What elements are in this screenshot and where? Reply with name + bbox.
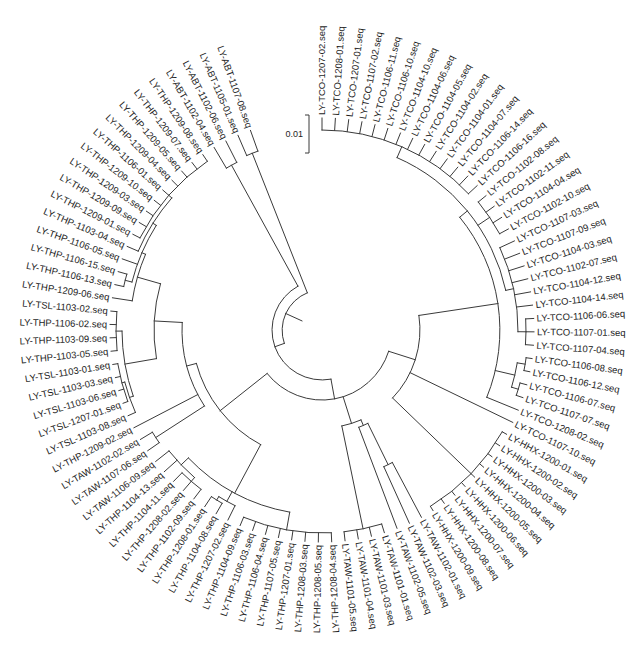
branch bbox=[335, 118, 336, 130]
branch bbox=[495, 443, 499, 446]
branch bbox=[515, 292, 531, 295]
scale-bar-line bbox=[305, 115, 309, 153]
branch bbox=[129, 396, 133, 397]
circular-phylogenetic-tree: LY-TCO-1207-02.seqLY-TCO-1208-01.seqLY-T… bbox=[0, 0, 640, 670]
clade-arc bbox=[460, 217, 500, 397]
clade-arc bbox=[272, 286, 331, 380]
branch bbox=[342, 426, 363, 529]
branch bbox=[194, 489, 201, 499]
branch bbox=[408, 138, 413, 149]
branch bbox=[226, 141, 237, 162]
branch bbox=[452, 491, 455, 495]
branch bbox=[516, 395, 523, 397]
branch bbox=[361, 420, 363, 426]
branch bbox=[440, 159, 447, 169]
branch bbox=[128, 412, 135, 415]
branch bbox=[111, 351, 117, 352]
branch bbox=[384, 467, 410, 523]
branch bbox=[252, 153, 307, 293]
branch bbox=[113, 364, 118, 365]
branch bbox=[133, 234, 140, 238]
branch bbox=[397, 147, 402, 158]
leaf-label: LY-THP-1208-05.seq bbox=[311, 545, 324, 633]
leaf-labels: LY-TCO-1207-02.seqLY-TCO-1208-01.seqLY-T… bbox=[19, 26, 625, 634]
branch bbox=[123, 402, 128, 404]
branch bbox=[478, 217, 490, 225]
branch bbox=[512, 387, 519, 389]
branch bbox=[343, 397, 351, 424]
branch bbox=[228, 506, 235, 520]
branch bbox=[156, 451, 169, 462]
branch bbox=[344, 532, 345, 541]
branch bbox=[384, 128, 388, 139]
branch bbox=[137, 277, 160, 284]
branch bbox=[524, 371, 530, 372]
branch bbox=[169, 195, 172, 198]
branch bbox=[146, 211, 153, 215]
branch bbox=[153, 223, 156, 225]
branch bbox=[410, 373, 513, 423]
branch bbox=[382, 524, 385, 533]
branch bbox=[509, 266, 524, 271]
branch bbox=[478, 196, 486, 202]
branch bbox=[396, 133, 400, 144]
branch bbox=[134, 395, 198, 428]
branch bbox=[441, 499, 444, 503]
branch bbox=[183, 481, 191, 490]
branch bbox=[203, 155, 207, 162]
branch bbox=[265, 526, 267, 535]
branch bbox=[430, 151, 436, 161]
branch bbox=[156, 406, 205, 438]
branch bbox=[347, 120, 349, 132]
branch bbox=[512, 279, 528, 283]
branch bbox=[462, 483, 465, 487]
leaf-label: LY-THP-1103-09.seq bbox=[19, 332, 107, 346]
leaf-label: LY-THP-1106-02.seq bbox=[19, 316, 107, 329]
branch bbox=[517, 363, 525, 364]
branch bbox=[164, 460, 177, 471]
branch bbox=[372, 125, 375, 137]
branch bbox=[450, 167, 458, 176]
branch bbox=[127, 246, 138, 251]
branch bbox=[517, 305, 533, 307]
branch bbox=[480, 464, 484, 467]
branch bbox=[172, 180, 178, 186]
branch bbox=[292, 531, 293, 540]
branch bbox=[122, 259, 137, 264]
branch bbox=[140, 432, 152, 439]
branch bbox=[286, 313, 302, 320]
leaf-label: LY-TCO-1207-02.seq bbox=[316, 26, 327, 115]
branch bbox=[125, 359, 157, 364]
branch bbox=[505, 253, 520, 259]
branch bbox=[139, 223, 146, 227]
branch bbox=[419, 304, 498, 316]
branch bbox=[118, 272, 127, 274]
branch bbox=[369, 527, 371, 536]
branch bbox=[112, 298, 132, 301]
branch bbox=[275, 343, 284, 346]
branch bbox=[525, 345, 533, 346]
branch bbox=[115, 376, 120, 377]
branch bbox=[500, 229, 509, 234]
clade-arc bbox=[267, 351, 389, 400]
branch bbox=[500, 241, 515, 248]
branch bbox=[227, 492, 232, 502]
branch bbox=[520, 383, 527, 385]
branch bbox=[220, 373, 267, 410]
branch bbox=[487, 397, 518, 410]
branch bbox=[192, 163, 197, 169]
branch bbox=[187, 363, 197, 366]
branch bbox=[154, 321, 182, 323]
branch bbox=[250, 130, 257, 151]
branch bbox=[148, 443, 160, 451]
leaf-label: LY-TCO-1107-01.seq bbox=[537, 326, 626, 338]
branch bbox=[486, 206, 494, 212]
leaf-label: LY-TCO-1106-06.seq bbox=[536, 308, 625, 324]
branch bbox=[217, 497, 219, 500]
branch bbox=[163, 190, 169, 195]
branch bbox=[154, 200, 160, 205]
branch bbox=[253, 522, 256, 531]
scale-bar: 0.01 bbox=[285, 115, 309, 153]
branch bbox=[359, 427, 397, 528]
branch bbox=[142, 253, 146, 255]
